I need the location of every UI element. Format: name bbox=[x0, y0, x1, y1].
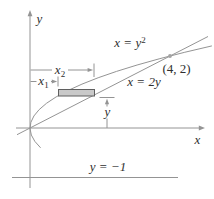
point-label: (4, 2) bbox=[162, 61, 190, 76]
intersection-dot bbox=[168, 54, 172, 58]
x2-dim-arrowhead bbox=[88, 68, 94, 72]
math-figure: y x x = y2 (4, 2) x = 2y x2 x1 y y = −1 bbox=[0, 0, 214, 199]
figure-canvas: y x x = y2 (4, 2) x = 2y x2 x1 y y = −1 bbox=[0, 0, 214, 199]
y-axis-arrowhead bbox=[28, 10, 33, 16]
parabola-label: x = y2 bbox=[113, 35, 145, 51]
y-dim-label: y bbox=[103, 104, 111, 119]
x-axis-arrowhead bbox=[199, 126, 205, 131]
line-label: x = 2y bbox=[126, 74, 161, 89]
strip-group bbox=[59, 90, 95, 97]
y-axis-label: y bbox=[35, 11, 43, 26]
x2-label: x2 bbox=[54, 62, 65, 79]
y-minus-one-label: y = −1 bbox=[88, 159, 126, 174]
strip-rect bbox=[59, 90, 95, 97]
x-axis-label: x bbox=[194, 132, 201, 147]
x1-label: x1 bbox=[37, 73, 48, 90]
x1-dim-arrowhead bbox=[52, 80, 57, 84]
